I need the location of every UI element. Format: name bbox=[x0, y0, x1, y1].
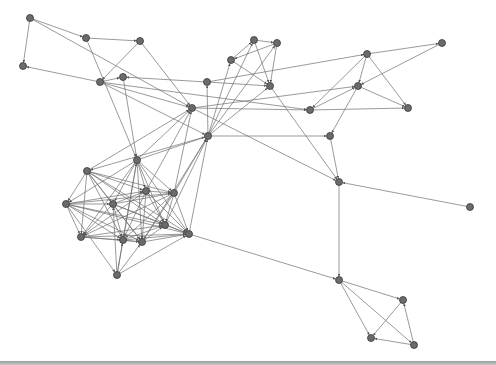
graph-edge bbox=[117, 163, 136, 275]
graph-edge bbox=[117, 245, 140, 275]
graph-edge bbox=[24, 18, 30, 63]
graph-edge bbox=[165, 139, 206, 225]
edges-layer bbox=[24, 18, 470, 345]
graph-node bbox=[327, 133, 334, 140]
graph-edge bbox=[330, 136, 338, 179]
graph-node bbox=[120, 237, 127, 244]
graph-node bbox=[439, 40, 446, 47]
graph-node bbox=[139, 239, 146, 246]
graph-edge bbox=[271, 43, 277, 83]
graph-node bbox=[405, 105, 412, 112]
graph-edge bbox=[208, 88, 267, 136]
graph-node bbox=[368, 335, 375, 342]
graph-edge bbox=[254, 40, 269, 83]
graph-node bbox=[134, 157, 141, 164]
graph-node bbox=[114, 272, 121, 279]
graph-node bbox=[355, 83, 362, 90]
graph-edge bbox=[189, 234, 336, 279]
graph-edge bbox=[404, 303, 414, 345]
graph-edge bbox=[87, 171, 171, 192]
graph-node bbox=[162, 222, 169, 229]
graph-node bbox=[336, 277, 343, 284]
graph-edge bbox=[142, 235, 186, 242]
graph-node bbox=[205, 133, 212, 140]
graph-node bbox=[274, 40, 281, 47]
graph-edge bbox=[123, 77, 136, 157]
graph-node bbox=[84, 168, 91, 175]
graph-node bbox=[411, 342, 418, 349]
graph-node bbox=[83, 35, 90, 42]
nodes-layer bbox=[20, 15, 474, 349]
graph-edge bbox=[86, 38, 137, 41]
graph-edge bbox=[137, 160, 164, 222]
graph-edge bbox=[87, 171, 186, 232]
graph-edge bbox=[342, 183, 470, 207]
graph-edge bbox=[207, 85, 208, 136]
graph-node bbox=[137, 38, 144, 45]
graph-node bbox=[78, 234, 85, 241]
network-graph bbox=[0, 0, 496, 365]
graph-edge bbox=[100, 82, 307, 110]
graph-edge bbox=[207, 82, 267, 86]
graph-edge bbox=[310, 88, 355, 110]
graph-edge bbox=[310, 108, 405, 110]
graph-edge bbox=[358, 86, 405, 107]
graph-node bbox=[204, 79, 211, 86]
graph-node bbox=[143, 188, 150, 195]
graph-edge bbox=[367, 44, 439, 54]
graph-edge bbox=[208, 46, 275, 136]
graph-edge bbox=[192, 108, 336, 180]
graph-node bbox=[97, 79, 104, 86]
graph-node bbox=[120, 74, 127, 81]
graph-node bbox=[63, 201, 70, 208]
bottom-border bbox=[0, 361, 496, 365]
graph-node bbox=[307, 107, 314, 114]
graph-node bbox=[400, 297, 407, 304]
graph-edge bbox=[26, 67, 100, 82]
graph-edge bbox=[270, 86, 337, 179]
graph-edge bbox=[137, 160, 171, 191]
graph-edge bbox=[373, 300, 403, 335]
graph-edge bbox=[367, 54, 406, 105]
graph-node bbox=[110, 201, 117, 208]
graph-node bbox=[27, 15, 34, 22]
graph-edge bbox=[117, 236, 186, 275]
graph-node bbox=[364, 51, 371, 58]
graph-edge bbox=[189, 139, 207, 234]
graph-node bbox=[267, 83, 274, 90]
graph-edge bbox=[30, 18, 83, 37]
graph-node bbox=[171, 190, 178, 197]
graph-edge bbox=[174, 193, 188, 231]
graph-edge bbox=[146, 111, 190, 191]
graph-node bbox=[228, 57, 235, 64]
graph-edge bbox=[86, 38, 136, 157]
graph-edge bbox=[137, 110, 189, 160]
graph-edge bbox=[126, 77, 207, 82]
graph-edge bbox=[137, 137, 205, 160]
graph-node bbox=[189, 105, 196, 112]
graph-node bbox=[186, 231, 193, 238]
graph-node bbox=[20, 63, 27, 70]
graph-node bbox=[251, 37, 258, 44]
graph-node bbox=[336, 179, 343, 186]
graph-edge bbox=[30, 18, 189, 106]
graph-node bbox=[467, 204, 474, 211]
graph-edge bbox=[192, 108, 307, 110]
